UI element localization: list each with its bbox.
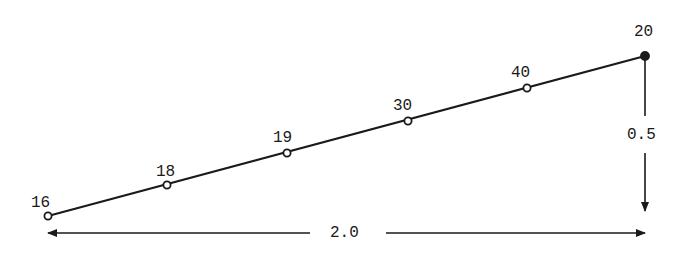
point-marker-19 xyxy=(283,149,290,156)
point-marker-40 xyxy=(523,84,530,91)
point-label-16: 16 xyxy=(31,195,50,211)
horizontal-dimension-label: 2.0 xyxy=(330,225,359,241)
point-label-20: 20 xyxy=(634,24,653,40)
point-marker-16 xyxy=(44,212,51,219)
point-marker-30 xyxy=(404,117,411,124)
slope-line xyxy=(48,56,645,216)
point-label-18: 18 xyxy=(156,164,175,180)
vertical-dimension-label: 0.5 xyxy=(627,127,656,143)
diagram-canvas xyxy=(0,0,692,255)
point-marker-18 xyxy=(163,181,170,188)
point-label-30: 30 xyxy=(393,98,412,114)
point-label-19: 19 xyxy=(273,130,292,146)
point-label-40: 40 xyxy=(511,65,530,81)
